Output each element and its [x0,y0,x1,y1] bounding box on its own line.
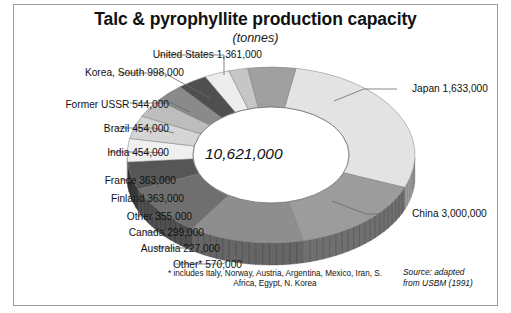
slice-label-other: Other 355,000 [24,211,192,222]
footnote-text: * includes Italy, Norway, Austria, Argen… [160,269,390,289]
source-line-1: Source: adapted [403,267,473,278]
slice-label-australia: Australia 227,000 [24,243,220,254]
chart-frame: Talc & pyrophyllite production capacity … [13,4,498,306]
slice-label-india: India 454,000 [24,147,169,158]
slice-label-united-states: United States 1,361,000 [102,49,262,60]
slice-label-former-ussr: Former USSR 544,000 [9,99,169,110]
source-line-2: from USBM (1991) [403,278,473,289]
slice-label-canada: Canada 299,000 [24,227,204,238]
chart-stage: Talc & pyrophyllite production capacity … [14,5,497,305]
source-note: Source: adapted from USBM (1991) [403,267,473,288]
slice-label-japan: Japan 1,633,000 [412,83,488,94]
slice-label-china: China 3,000,000 [412,208,487,219]
center-total-value: 10,621,000 [205,145,283,163]
slice-label-france: France 363,000 [24,175,176,186]
slice-label-brazil: Brazil 454,000 [24,123,169,134]
slice-label-finland: Finland 363,000 [24,193,184,204]
slice-label-korea-south: Korea, South 998,000 [24,67,184,78]
